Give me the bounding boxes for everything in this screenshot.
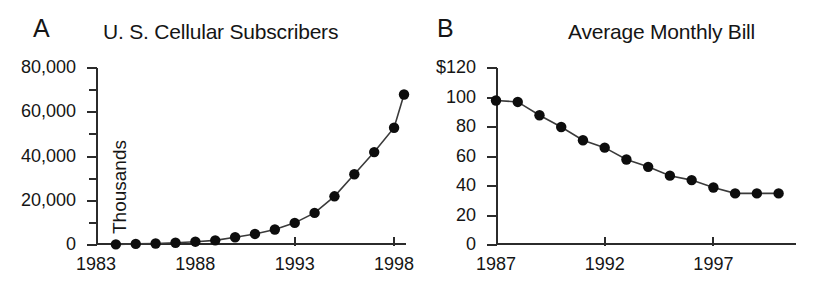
- panel-b-data-point: [578, 135, 588, 145]
- panel-a-data-point: [329, 191, 339, 201]
- panel-b-data-point: [643, 162, 653, 172]
- panel-b-data-point: [556, 122, 566, 132]
- panel-a-data-point: [399, 89, 409, 99]
- panel-a-y-tick-label: 40,000: [21, 145, 76, 166]
- panel-b-data-point: [686, 175, 696, 185]
- panel-a-data-point: [389, 123, 399, 133]
- panel-a-data-point: [111, 239, 121, 249]
- panel-a-y-tick-label: 80,000: [21, 57, 76, 78]
- panel-a-data-point: [210, 235, 220, 245]
- panel-a-series: [96, 68, 406, 245]
- panel-b-data-point: [773, 188, 783, 198]
- panel-b-x-tick-label: 1997: [693, 254, 733, 275]
- panel-a-letter: A: [33, 14, 50, 43]
- panel-b-x-tick-label: 1992: [585, 254, 625, 275]
- panel-a-x-tick-label: 1993: [275, 254, 315, 275]
- panel-b-y-tick-label: 100: [446, 86, 476, 107]
- panel-a-data-point: [150, 238, 160, 248]
- panel-a-y-tick-label: 20,000: [21, 189, 76, 210]
- panel-a-data-point: [349, 169, 359, 179]
- panel-b-y-tick-label: 20: [456, 204, 476, 225]
- panel-b-data-point: [600, 142, 610, 152]
- panel-b-letter: B: [437, 14, 454, 43]
- panel-b-data-point: [730, 188, 740, 198]
- panel-a-y-tick-label: 60,000: [21, 101, 76, 122]
- panel-b-plot-area: 020406080100$120 198719921997: [496, 68, 796, 245]
- panel-b-data-point: [621, 154, 631, 164]
- panel-b-data-point: [513, 97, 523, 107]
- panel-b-x-tick-label: 1987: [476, 254, 516, 275]
- panel-a-title: U. S. Cellular Subscribers: [103, 20, 338, 44]
- panel-a-data-point: [290, 218, 300, 228]
- panel-a-plot-area: Thousands 020,00040,00060,00080,000 1983…: [96, 68, 406, 245]
- panel-a-y-tick-label: 0: [66, 234, 76, 255]
- panel-b-y-tick-label: 60: [456, 145, 476, 166]
- panel-a-data-point: [230, 232, 240, 242]
- panel-a-data-point: [369, 147, 379, 157]
- two-panel-figure: A U. S. Cellular Subscribers Thousands 0…: [0, 0, 819, 301]
- panel-b-data-point: [534, 110, 544, 120]
- panel-b-title: Average Monthly Bill: [568, 20, 755, 44]
- panel-a-data-point: [270, 224, 280, 234]
- panel-b-y-tick-label: 0: [466, 234, 476, 255]
- panel-a-data-point: [250, 229, 260, 239]
- panel-b-data-point: [752, 188, 762, 198]
- panel-b-y-tick-label: 80: [456, 116, 476, 137]
- panel-b-y-tick-label: 40: [456, 175, 476, 196]
- panel-a-x-tick-label: 1998: [374, 254, 414, 275]
- panel-a-data-point: [131, 239, 141, 249]
- panel-b-series: [496, 68, 796, 245]
- panel-b: B Average Monthly Bill 020406080100$120 …: [415, 0, 819, 301]
- panel-b-data-point: [708, 182, 718, 192]
- panel-a-x-tick-label: 1988: [175, 254, 215, 275]
- panel-a-x-tick-label: 1983: [76, 254, 116, 275]
- panel-a-data-point: [170, 238, 180, 248]
- panel-a-series-line: [116, 95, 404, 245]
- panel-a-data-point: [309, 208, 319, 218]
- panel-b-data-point: [491, 95, 501, 105]
- panel-a: A U. S. Cellular Subscribers Thousands 0…: [0, 0, 415, 301]
- panel-b-data-point: [665, 170, 675, 180]
- panel-b-y-tick-label: $120: [436, 57, 476, 78]
- panel-a-data-point: [190, 236, 200, 246]
